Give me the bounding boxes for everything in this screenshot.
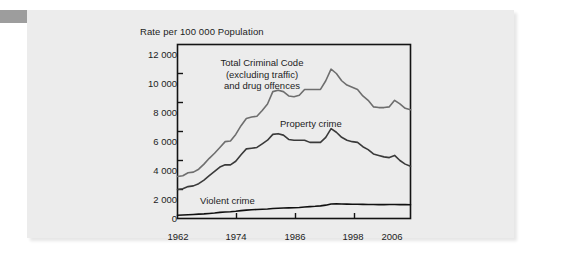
series-line-property-crime — [178, 129, 411, 190]
figure-page: Rate per 100 000 Population 12 000 10 00… — [0, 0, 566, 258]
line-chart-plot — [27, 10, 514, 238]
plot-frame — [178, 45, 411, 219]
series-line-violent-crime — [178, 204, 411, 215]
series-line-total-criminal-code — [178, 69, 411, 176]
figure-card: Rate per 100 000 Population 12 000 10 00… — [27, 10, 514, 238]
y-axis-ticks — [178, 74, 184, 190]
x-axis-ticks — [237, 213, 355, 219]
page-corner-marker — [0, 10, 27, 23]
